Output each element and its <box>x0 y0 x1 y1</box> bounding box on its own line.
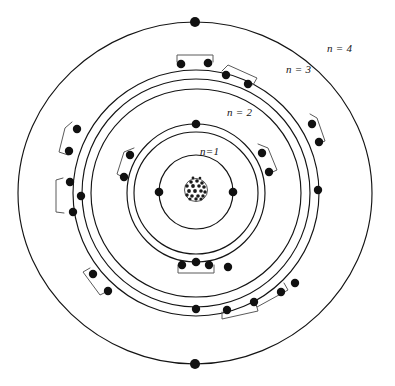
electron-n3 <box>223 306 231 314</box>
electron-n2 <box>205 261 213 269</box>
electron-n2 <box>265 168 273 176</box>
electron-n3 <box>277 288 285 296</box>
electron-n3 <box>65 147 73 155</box>
shell-label-n2: n = 2 <box>227 106 253 118</box>
electron-n3 <box>244 80 252 88</box>
shell-label-n4: n = 4 <box>327 42 353 54</box>
electron-n4 <box>190 359 200 369</box>
electron-n3 <box>291 279 299 287</box>
electron-n3 <box>192 305 200 313</box>
electron-n3 <box>177 60 186 69</box>
electron-n1 <box>155 188 164 197</box>
electron-n2 <box>192 258 201 267</box>
electron-n3 <box>250 298 258 306</box>
bohr-model-svg: n=1 n = 2 n = 3 n = 4 <box>0 0 395 386</box>
electron-n2 <box>126 151 134 159</box>
electron-n3 <box>69 208 77 216</box>
electron-n3 <box>104 287 112 295</box>
electron-n2 <box>258 149 266 157</box>
electron-n3 <box>66 178 74 186</box>
electron-n3 <box>204 59 213 68</box>
electron-n3 <box>73 125 81 133</box>
electron-n2 <box>120 173 128 181</box>
electron-n3 <box>308 120 316 128</box>
electron-n4 <box>190 17 200 27</box>
electron-n3 <box>89 270 97 278</box>
electron-n3 <box>314 186 322 194</box>
electron-n3 <box>77 192 85 200</box>
electron-n1 <box>229 188 238 197</box>
electron-n3 <box>315 138 323 146</box>
shell-label-n1: n=1 <box>200 145 219 157</box>
atom-diagram-canvas: n=1 n = 2 n = 3 n = 4 <box>0 0 395 386</box>
electron-n3 <box>224 263 232 271</box>
electron-n2 <box>178 261 186 269</box>
electron-n3 <box>222 71 230 79</box>
shell-label-n3: n = 3 <box>286 63 312 75</box>
electron-n2 <box>192 120 201 129</box>
